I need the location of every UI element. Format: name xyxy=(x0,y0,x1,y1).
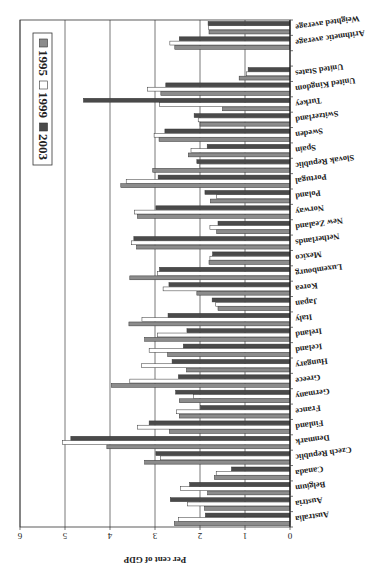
category-label: United States xyxy=(294,62,344,79)
bar-2003 xyxy=(168,313,290,317)
tick-label: 4 xyxy=(107,531,112,541)
category-label: France xyxy=(295,403,322,416)
bar-2003 xyxy=(71,436,290,440)
category-label: Belgium xyxy=(295,479,326,493)
bar-1995 xyxy=(197,291,290,295)
category-label: Canada xyxy=(294,464,324,478)
bar-2003 xyxy=(187,329,290,333)
bar-1999 xyxy=(158,272,290,276)
bar-1995 xyxy=(107,445,290,449)
bar-1995 xyxy=(209,261,290,265)
tick-label: 1 xyxy=(243,531,248,541)
bar-2003 xyxy=(232,467,291,471)
bar-1995 xyxy=(218,307,290,311)
bar-1995 xyxy=(175,45,290,49)
category-label: Mexico xyxy=(295,249,323,263)
bar-1995 xyxy=(169,430,290,434)
bar-1995 xyxy=(145,337,290,341)
category-label: Austria xyxy=(294,495,323,509)
category-label: Norway xyxy=(294,203,325,217)
bar-1999 xyxy=(181,487,290,491)
legend-label-1999: 1999 xyxy=(36,92,51,119)
category-label: Luxembourg xyxy=(294,262,343,279)
bar-1999 xyxy=(187,502,290,506)
bar-1999 xyxy=(158,333,290,337)
category-label: Greece xyxy=(295,373,322,386)
bar-1999 xyxy=(177,410,290,414)
bar-1995 xyxy=(205,506,291,510)
legend: 199519992003 xyxy=(33,33,52,165)
bar-2003 xyxy=(170,498,290,502)
bar-2003 xyxy=(205,190,290,194)
bar-1999 xyxy=(163,287,290,291)
bar-2003 xyxy=(83,98,290,102)
bar-1995 xyxy=(208,491,290,495)
tick-label: 2 xyxy=(198,531,203,541)
bar-1995 xyxy=(174,522,290,526)
bar-1999 xyxy=(142,318,290,322)
bar-1995 xyxy=(214,476,290,480)
category-label: Japan xyxy=(294,296,318,309)
bar-1995 xyxy=(153,168,290,172)
bar-2003 xyxy=(156,452,290,456)
bar-1995 xyxy=(200,122,290,126)
tick-label: 3 xyxy=(152,531,157,541)
bar-1999 xyxy=(200,164,290,168)
bar-1999 xyxy=(209,26,290,30)
category-label: Hungary xyxy=(294,356,328,371)
legend-swatch-2003 xyxy=(40,123,48,131)
bar-2003 xyxy=(205,513,290,517)
legend-label-1995: 1995 xyxy=(36,50,51,77)
bar-1999 xyxy=(191,149,290,153)
bar-2003 xyxy=(213,252,290,256)
axis-ticks: 0123456 xyxy=(17,527,292,541)
category-label: Weighted average xyxy=(295,14,361,33)
bar-2003 xyxy=(149,421,290,425)
bar-1999 xyxy=(132,241,290,245)
tick-label: 5 xyxy=(62,531,67,541)
bar-2003 xyxy=(194,114,290,118)
category-label: Switzerland xyxy=(294,109,339,125)
bar-1995 xyxy=(121,184,290,188)
bar-2003 xyxy=(172,359,290,363)
bar-1999 xyxy=(142,364,291,368)
bar-1999 xyxy=(216,471,290,475)
bar-1999 xyxy=(147,87,290,91)
bar-1995 xyxy=(161,92,290,96)
bar-1999 xyxy=(160,456,290,460)
bar-2003 xyxy=(208,21,290,25)
category-label: Turkey xyxy=(294,96,322,110)
bar-1995 xyxy=(187,368,291,372)
bar-1999 xyxy=(62,441,290,445)
category-label: Italy xyxy=(294,312,313,324)
legend-swatch-1995 xyxy=(40,39,48,47)
bar-2003 xyxy=(156,206,290,210)
bar-1999 xyxy=(178,517,290,521)
bar-1999 xyxy=(216,302,290,306)
category-label: Poland xyxy=(294,188,321,201)
bar-1995 xyxy=(111,383,290,387)
bar-1999 xyxy=(210,225,290,229)
bar-2003 xyxy=(178,375,290,379)
bar-1995 xyxy=(209,30,290,34)
bar-2003 xyxy=(218,221,290,225)
category-label: Portugal xyxy=(294,172,327,186)
category-label: Korea xyxy=(294,281,318,294)
bar-1995 xyxy=(168,353,290,357)
bar-2003 xyxy=(158,175,290,179)
category-label: New Zealand xyxy=(294,216,343,233)
bar-2003 xyxy=(160,267,291,271)
bar-1999 xyxy=(198,118,290,122)
category-label: Australia xyxy=(294,510,330,525)
rotated-chart-figure: AustraliaAustriaBelgiumCanadaCzech Repub… xyxy=(0,0,379,570)
bar-2003 xyxy=(212,298,290,302)
category-label: Germany xyxy=(294,387,330,402)
bar-2003 xyxy=(207,144,290,148)
legend-label-2003: 2003 xyxy=(36,134,51,161)
bar-1999 xyxy=(217,195,290,199)
bar-2003 xyxy=(166,83,290,87)
bar-1999 xyxy=(149,348,290,352)
bar-1999 xyxy=(246,72,290,76)
bar-1999 xyxy=(126,179,290,183)
bar-1995 xyxy=(137,214,290,218)
